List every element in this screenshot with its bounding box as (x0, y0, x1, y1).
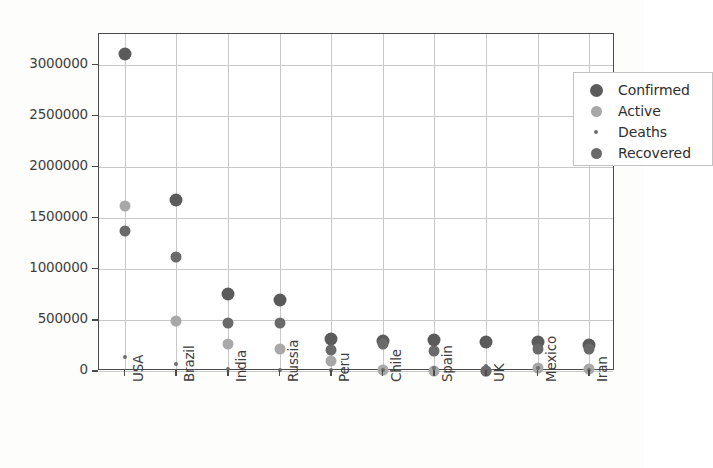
x-tick-label: Spain (439, 345, 455, 382)
x-tick-label: Iran (594, 356, 610, 382)
data-point (584, 344, 595, 355)
y-tick-label: 3000000 (29, 55, 88, 71)
y-tick-label: 500000 (38, 310, 88, 326)
recovered-marker-icon (591, 148, 602, 159)
y-tick-mark (92, 370, 98, 372)
x-tick-label: Chile (388, 349, 404, 382)
gridline-vertical (331, 34, 332, 369)
chart-legend: ConfirmedActiveDeathsRecovered (573, 72, 713, 166)
y-tick-label: 1000000 (29, 259, 88, 275)
x-tick-mark (124, 370, 126, 376)
y-tick-mark (92, 268, 98, 270)
x-tick-label: UK (491, 364, 507, 382)
legend-item-deaths[interactable]: Deaths (574, 121, 712, 143)
legend-label: Recovered (618, 145, 691, 161)
legend-item-active[interactable]: Active (574, 100, 712, 122)
plot-area: ConfirmedActiveDeathsRecovered (98, 33, 614, 370)
y-tick-label: 2000000 (29, 157, 88, 173)
y-tick-mark (92, 64, 98, 66)
x-tick-label: USA (130, 355, 146, 382)
y-tick-label: 0 (80, 361, 88, 377)
legend-item-confirmed[interactable]: Confirmed (574, 79, 712, 101)
y-tick-mark (92, 217, 98, 219)
y-tick-label: 2500000 (29, 106, 88, 122)
legend-swatch-wrap (574, 84, 618, 97)
x-tick-label: Mexico (543, 336, 559, 382)
active-marker-icon (591, 106, 602, 117)
legend-label: Deaths (618, 124, 667, 140)
data-point (325, 332, 338, 345)
legend-label: Confirmed (618, 82, 690, 98)
legend-swatch-wrap (574, 106, 618, 117)
deaths-marker-icon (594, 130, 598, 134)
x-tick-mark (537, 370, 539, 376)
gridline-vertical (383, 34, 384, 369)
legend-swatch-wrap (574, 130, 618, 134)
data-point (119, 226, 130, 237)
data-point (223, 338, 234, 349)
data-point (119, 200, 130, 211)
x-tick-mark (330, 370, 332, 376)
x-tick-mark (279, 370, 281, 376)
confirmed-marker-icon (590, 84, 603, 97)
data-point (171, 315, 182, 326)
x-tick-mark (588, 370, 590, 376)
x-tick-label: India (233, 350, 249, 382)
y-tick-mark (92, 166, 98, 168)
x-tick-label: Russia (285, 340, 301, 382)
legend-item-recovered[interactable]: Recovered (574, 142, 712, 164)
data-point (480, 335, 493, 348)
data-point (170, 194, 183, 207)
data-point (171, 251, 182, 262)
data-point (118, 48, 131, 61)
x-tick-mark (382, 370, 384, 376)
x-tick-mark (175, 370, 177, 376)
data-point (123, 355, 127, 359)
x-tick-mark (485, 370, 487, 376)
x-tick-label: Brazil (181, 346, 197, 382)
x-tick-mark (433, 370, 435, 376)
y-tick-mark (92, 115, 98, 117)
data-point (532, 343, 543, 354)
legend-swatch-wrap (574, 148, 618, 159)
legend-label: Active (618, 103, 661, 119)
x-tick-mark (227, 370, 229, 376)
data-point (174, 362, 178, 366)
data-point (274, 318, 285, 329)
data-point (222, 288, 235, 301)
y-tick-label: 1500000 (29, 208, 88, 224)
data-point (274, 344, 285, 355)
gridline-vertical (486, 34, 487, 369)
data-point (223, 318, 234, 329)
y-tick-mark (92, 319, 98, 321)
data-point (377, 338, 388, 349)
gridline-vertical (538, 34, 539, 369)
data-point (536, 366, 540, 370)
gridline-vertical (434, 34, 435, 369)
x-tick-label: Peru (336, 353, 352, 382)
data-point (273, 293, 286, 306)
